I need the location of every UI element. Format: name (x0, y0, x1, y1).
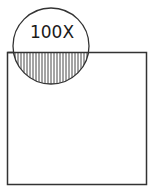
magnification-label: 100X (14, 22, 90, 42)
